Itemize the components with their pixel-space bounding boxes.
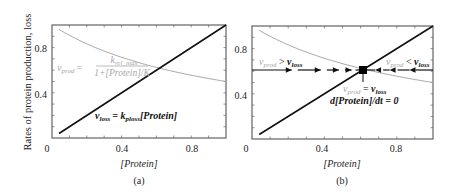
panel-a-vprod-formula: vprod= krel_max 1+[Protein]/K bbox=[57, 54, 150, 78]
figure: Rates of protein production, loss 0.8 0.… bbox=[0, 0, 452, 196]
panel-a-vloss-formula: vloss= kploss[Protein] bbox=[95, 110, 178, 123]
panel-a-xtick-0: 0 bbox=[45, 143, 50, 154]
panel-b-xtick-08: 0.8 bbox=[390, 143, 403, 154]
y-axis-label: Rates of protein production, loss bbox=[22, 14, 33, 151]
panel-a: 0.8 0.4 0 0.4 0.8 [Protein] (a) vprod= k… bbox=[35, 25, 227, 187]
panel-a-ytick-04: 0.4 bbox=[35, 89, 48, 100]
svg-text:krel_max: krel_max bbox=[110, 54, 138, 67]
panel-a-ytick-08: 0.8 bbox=[35, 43, 48, 54]
svg-text:vprod=: vprod= bbox=[57, 62, 82, 75]
svg-text:1+[Protein]/K: 1+[Protein]/K bbox=[94, 68, 150, 78]
panel-b-label: (b) bbox=[336, 175, 348, 187]
panel-b-xtick-0: 0 bbox=[244, 143, 249, 154]
panel-b-flow-arrows bbox=[252, 67, 433, 73]
panel-b-ytick-04: 0.4 bbox=[235, 90, 248, 101]
panel-a-xtick-08: 0.8 bbox=[186, 143, 199, 154]
panel-b-steady-state-marker bbox=[359, 66, 367, 74]
panel-b: 0.8 0.4 0 0.4 0.8 [Protein] (b) vprod > … bbox=[235, 26, 434, 187]
panel-b-vprod-lt-vloss: vprod < vloss bbox=[386, 56, 430, 69]
panel-b-xtick-04: 0.4 bbox=[316, 143, 329, 154]
panel-a-xtick-04: 0.4 bbox=[116, 143, 129, 154]
panel-a-xlabel: [Protein] bbox=[120, 158, 158, 169]
panel-b-xlabel: [Protein] bbox=[323, 158, 361, 169]
panel-b-vloss-line bbox=[259, 26, 433, 135]
panel-a-label: (a) bbox=[133, 175, 144, 187]
panel-b-derivative-zero: d[Protein]/dt = 0 bbox=[330, 95, 398, 106]
panel-b-ytick-08: 0.8 bbox=[235, 44, 248, 55]
panel-b-vprod-gt-vloss: vprod > vloss bbox=[259, 56, 303, 69]
